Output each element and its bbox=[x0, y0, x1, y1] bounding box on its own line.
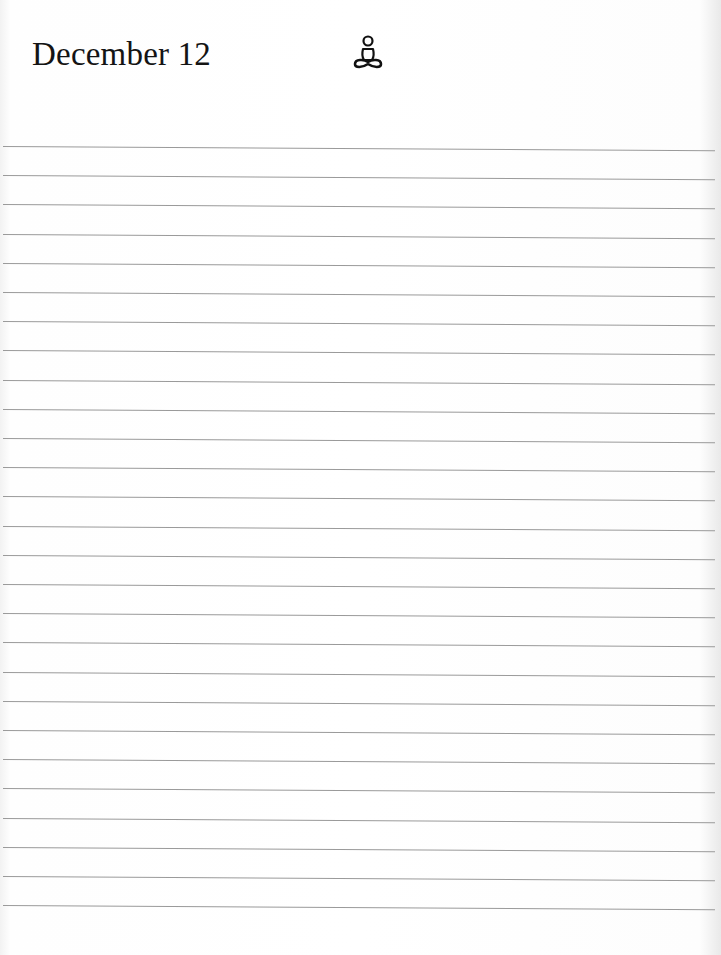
ruled-line bbox=[3, 905, 715, 910]
ruled-line bbox=[3, 584, 715, 589]
ruled-line bbox=[3, 876, 715, 881]
ruled-line bbox=[3, 730, 715, 735]
ruled-line bbox=[3, 759, 715, 764]
ruled-line bbox=[3, 380, 715, 385]
ruled-line bbox=[3, 818, 715, 823]
ruled-line bbox=[3, 234, 715, 239]
ruled-line bbox=[3, 263, 715, 268]
ruled-line bbox=[3, 788, 715, 793]
ruled-line bbox=[3, 409, 715, 414]
journal-page: December 12 bbox=[0, 0, 721, 955]
ruled-line bbox=[3, 467, 715, 472]
ruled-line bbox=[3, 642, 715, 647]
ruled-line bbox=[3, 438, 715, 443]
ruled-lines bbox=[0, 0, 721, 955]
ruled-line bbox=[3, 555, 715, 560]
ruled-line bbox=[3, 146, 715, 151]
ruled-line bbox=[3, 496, 715, 501]
ruled-line bbox=[3, 613, 715, 618]
ruled-line bbox=[3, 526, 715, 531]
ruled-line bbox=[3, 321, 715, 326]
ruled-line bbox=[3, 350, 715, 355]
ruled-line bbox=[3, 292, 715, 297]
ruled-line bbox=[3, 701, 715, 706]
ruled-line bbox=[3, 672, 715, 677]
ruled-line bbox=[3, 847, 715, 852]
ruled-line bbox=[3, 204, 715, 209]
ruled-line bbox=[3, 175, 715, 180]
